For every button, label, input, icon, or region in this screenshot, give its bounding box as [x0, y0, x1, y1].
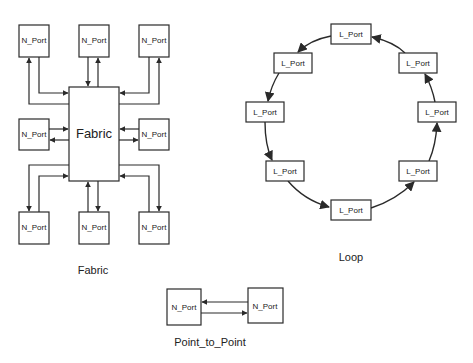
loop-caption: Loop: [339, 251, 363, 263]
port-label: L_Port: [339, 206, 363, 215]
fabric-port-middle-left: N_Port: [19, 119, 49, 150]
port-label: N_Port: [82, 223, 108, 232]
p2p-port-right: N_Port: [248, 288, 283, 323]
fabric-port-middle-right: N_Port: [139, 119, 169, 150]
fabric-port-top-center: N_Port: [79, 25, 109, 57]
fabric-center-label: Fabric: [76, 126, 113, 141]
port-label: L_Port: [406, 59, 430, 68]
fabric-port-bottom-center: N_Port: [79, 212, 109, 244]
port-label: N_Port: [142, 130, 168, 139]
port-label: N_Port: [22, 36, 48, 45]
port-label: N_Port: [142, 36, 168, 45]
loop-port-top: L_Port: [331, 24, 371, 44]
p2p-caption: Point_to_Point: [174, 336, 246, 348]
port-label: N_Port: [22, 223, 48, 232]
p2p-connections: [201, 302, 248, 313]
fabric-port-bottom-left: N_Port: [19, 212, 49, 244]
topology-diagram: Fabric N_Port N_Port N_Port N_Port N_Por…: [0, 0, 473, 363]
port-label: L_Port: [253, 108, 277, 117]
port-label: N_Port: [82, 36, 108, 45]
loop-port-top-right: L_Port: [399, 53, 437, 73]
port-label: L_Port: [406, 167, 430, 176]
loop-port-left: L_Port: [246, 102, 284, 122]
fabric-topology: Fabric N_Port N_Port N_Port N_Port N_Por…: [19, 25, 169, 276]
loop-topology: L_Port L_Port L_Port L_Port L_Port L_Por…: [246, 24, 456, 263]
port-label: N_Port: [172, 303, 198, 312]
port-label: L_Port: [339, 30, 363, 39]
point-to-point-topology: N_Port N_Port Point_to_Point: [167, 288, 283, 348]
loop-port-bottom-right: L_Port: [399, 161, 437, 181]
port-label: N_Port: [142, 223, 168, 232]
p2p-port-left: N_Port: [167, 289, 201, 325]
loop-port-bottom: L_Port: [331, 200, 371, 220]
fabric-switch: Fabric: [69, 87, 119, 181]
fabric-caption: Fabric: [78, 264, 109, 276]
fabric-port-bottom-right: N_Port: [139, 212, 169, 244]
loop-port-bottom-left: L_Port: [266, 161, 304, 181]
port-label: N_Port: [22, 130, 48, 139]
port-label: L_Port: [273, 167, 297, 176]
fabric-port-top-left: N_Port: [19, 25, 49, 57]
port-label: L_Port: [425, 108, 449, 117]
port-label: N_Port: [253, 302, 279, 311]
port-label: L_Port: [281, 59, 305, 68]
loop-port-top-left: L_Port: [274, 53, 312, 73]
fabric-port-top-right: N_Port: [139, 25, 169, 57]
loop-port-right: L_Port: [418, 102, 456, 122]
